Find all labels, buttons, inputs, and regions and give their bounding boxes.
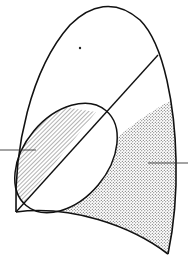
diagram-canvas [0, 0, 188, 264]
lobe-diagram [0, 0, 188, 264]
small-dot [79, 47, 81, 49]
